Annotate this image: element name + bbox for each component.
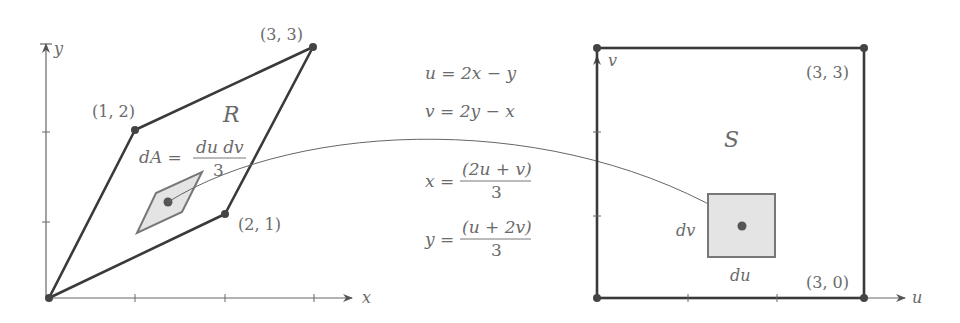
vertex-origin [45, 294, 53, 302]
vertex-label-3-0-uv: (3, 0) [806, 273, 849, 292]
vertex-label-2-1: (2, 1) [238, 215, 281, 234]
vertex-label-3-3: (3, 3) [260, 25, 303, 44]
du-label: du [730, 266, 751, 285]
dv-label: dv [676, 221, 695, 240]
region-r-label: R [222, 102, 240, 127]
transformation-equations: u = 2x − y v = 2y − x x = (2u + v) 3 y =… [424, 63, 532, 260]
vertex-1-2 [131, 126, 139, 134]
vertex-label-1-2: (1, 2) [92, 102, 135, 121]
y-axis-label: y [53, 39, 64, 58]
x-axis-label: x [362, 288, 371, 307]
region-s-label: S [724, 127, 739, 152]
eq-x-numerator: (2u + v) [462, 159, 532, 179]
vertex-2-1 [221, 210, 229, 218]
area-element-lhs: dA = [139, 147, 182, 167]
vertex-3-3 [309, 43, 317, 51]
eq-x-denominator: 3 [491, 182, 502, 202]
vertex-label-3-3-uv: (3, 3) [806, 63, 849, 82]
eq-u: u = 2x − y [425, 63, 516, 83]
change-of-variables-diagram: x y (1, 2) (2, 1) (3, 3) R dA = du dv 3 … [0, 0, 960, 323]
region-r [49, 47, 313, 298]
eq-y-numerator: (u + 2v) [462, 217, 532, 237]
sample-point-uv [738, 222, 747, 231]
eq-v: v = 2y − x [425, 101, 515, 121]
left-panel: x y (1, 2) (2, 1) (3, 3) R dA = du dv 3 [40, 25, 371, 307]
eq-y-denominator: 3 [491, 240, 502, 260]
eq-x-lhs: x = [425, 171, 454, 191]
area-element-numerator: du dv [196, 137, 244, 157]
u-axis-label: u [912, 288, 922, 307]
v-axis-label: v [608, 51, 617, 70]
eq-y-lhs: y = [424, 229, 454, 249]
